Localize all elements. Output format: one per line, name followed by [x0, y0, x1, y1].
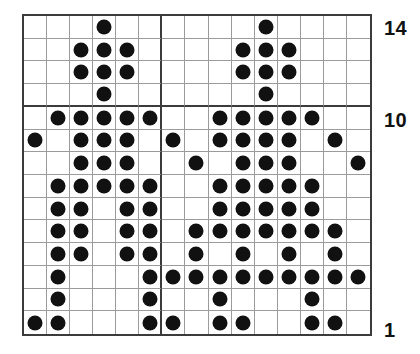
grid-cell: [209, 266, 232, 289]
grid-cell: [93, 152, 116, 175]
pattern-dot: [142, 246, 157, 261]
grid-cell: [255, 289, 278, 312]
grid-cell: [347, 175, 370, 198]
pattern-dot: [258, 87, 273, 102]
grid-cell: [116, 289, 139, 312]
grid-cell: [278, 130, 301, 153]
pattern-dot: [235, 269, 250, 284]
grid-cell: [93, 175, 116, 198]
grid-cell: [162, 84, 185, 107]
grid-cell: [162, 39, 185, 62]
pattern-dot: [74, 156, 89, 171]
grid-cell: [70, 266, 93, 289]
pattern-dot: [258, 201, 273, 216]
grid-cell: [185, 198, 208, 221]
grid-cell: [185, 61, 208, 84]
grid-cell: [255, 220, 278, 243]
pattern-dot: [166, 133, 181, 148]
grid-cell: [24, 198, 47, 221]
grid-cell: [24, 107, 47, 130]
grid-cell: [278, 152, 301, 175]
grid-cell: [139, 266, 162, 289]
pattern-dot: [281, 201, 296, 216]
grid-cell: [232, 243, 255, 266]
grid-cell: [185, 84, 208, 107]
grid-cell: [232, 107, 255, 130]
pattern-dot: [281, 224, 296, 239]
pattern-dot: [166, 269, 181, 284]
grid-cell: [162, 61, 185, 84]
grid-cell: [209, 84, 232, 107]
grid-cell: [255, 266, 278, 289]
grid-cell: [255, 152, 278, 175]
grid-cell: [139, 175, 162, 198]
row-label-14: 14: [384, 18, 407, 38]
grid-cell: [70, 61, 93, 84]
pattern-dot: [97, 19, 112, 34]
grid-cell: [116, 243, 139, 266]
pattern-dot: [28, 133, 43, 148]
pattern-dot: [142, 292, 157, 307]
grid-cell: [347, 198, 370, 221]
grid-cell: [116, 130, 139, 153]
grid-cell: [278, 289, 301, 312]
row-label-1: 1: [384, 320, 396, 340]
pattern-dot: [304, 269, 319, 284]
pattern-dot: [281, 42, 296, 57]
grid-cell: [47, 130, 70, 153]
grid-cell: [70, 16, 93, 39]
pattern-dot: [258, 110, 273, 125]
grid-cell: [93, 84, 116, 107]
grid-cell: [93, 220, 116, 243]
grid-cell: [116, 175, 139, 198]
grid-cell: [70, 152, 93, 175]
grid-cell: [139, 107, 162, 130]
pattern-dot: [235, 110, 250, 125]
pattern-dot: [304, 224, 319, 239]
grid-cell: [232, 16, 255, 39]
grid-cell: [93, 289, 116, 312]
pattern-chart: 14 10 1: [0, 0, 420, 354]
grid-cell: [24, 175, 47, 198]
grid-cell: [324, 107, 347, 130]
pattern-dot: [142, 269, 157, 284]
pattern-dot: [258, 178, 273, 193]
pattern-dot: [235, 156, 250, 171]
grid-cell: [232, 198, 255, 221]
pattern-dot: [212, 178, 227, 193]
grid-cell: [70, 107, 93, 130]
pattern-dot: [351, 269, 366, 284]
grid-cell: [47, 243, 70, 266]
grid-cell: [70, 130, 93, 153]
grid-cell: [93, 107, 116, 130]
pattern-dot: [120, 178, 135, 193]
grid-cell: [255, 311, 278, 334]
grid-cell: [185, 175, 208, 198]
grid-cell: [139, 289, 162, 312]
pattern-dot: [74, 224, 89, 239]
grid-cell: [162, 243, 185, 266]
grid-cell: [70, 243, 93, 266]
grid-cell: [301, 61, 324, 84]
grid-cell: [301, 175, 324, 198]
grid-cell: [209, 39, 232, 62]
grid-cell: [139, 311, 162, 334]
grid-cell: [347, 220, 370, 243]
pattern-dot: [166, 315, 181, 330]
pattern-dot: [74, 133, 89, 148]
grid-cell: [347, 84, 370, 107]
pattern-dot: [258, 133, 273, 148]
pattern-dot: [235, 65, 250, 80]
grid-cell: [24, 152, 47, 175]
grid-cell: [324, 266, 347, 289]
pattern-dot: [189, 156, 204, 171]
grid-cell: [347, 16, 370, 39]
grid-cell: [93, 243, 116, 266]
grid-cell: [70, 289, 93, 312]
pattern-dot: [212, 269, 227, 284]
grid-cell: [347, 243, 370, 266]
grid-cell: [278, 84, 301, 107]
pattern-dot: [327, 224, 342, 239]
grid-cell: [185, 311, 208, 334]
grid-cell: [185, 243, 208, 266]
